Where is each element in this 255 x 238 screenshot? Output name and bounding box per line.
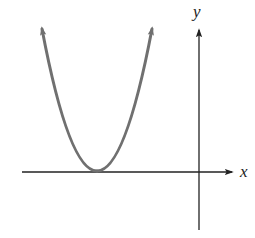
parabola-right-branch [97, 29, 152, 171]
x-axis-label: x [239, 162, 248, 181]
parabola-figure: x y [0, 0, 255, 238]
y-axis-label: y [191, 2, 201, 21]
parabola-left-branch [42, 29, 97, 171]
